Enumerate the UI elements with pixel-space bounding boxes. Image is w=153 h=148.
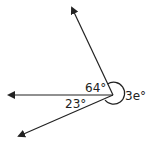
angle-bottom-label: 23°: [65, 97, 86, 111]
angle-top-label: 64°: [85, 81, 106, 95]
angle-reflex-label: 3e°: [125, 89, 146, 103]
diagram-svg: 64° 23° 3e°: [0, 0, 153, 148]
angle-diagram: 64° 23° 3e°: [0, 0, 153, 148]
